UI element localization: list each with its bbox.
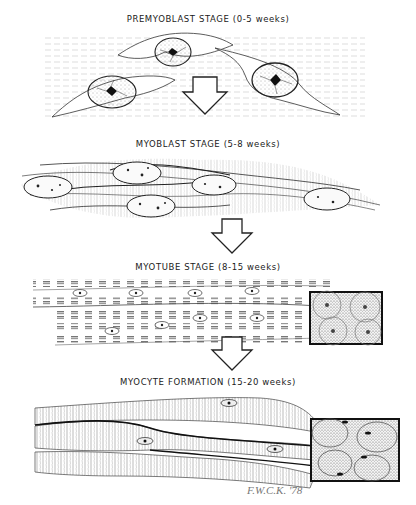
- myogenesis-diagram: F.W.C.K. '78: [0, 0, 416, 505]
- artist-signature: F.W.C.K. '78: [246, 484, 303, 496]
- down-arrow-icon: [212, 219, 252, 253]
- myocyte-cross-section-inset: [311, 419, 399, 481]
- myoblast-illustration: [20, 159, 380, 253]
- myocyte-illustration: F.W.C.K. '78: [35, 398, 399, 496]
- myotube-cross-section-inset: [310, 291, 382, 345]
- premyoblast-illustration: [45, 33, 365, 120]
- myotube-illustration: [33, 279, 382, 370]
